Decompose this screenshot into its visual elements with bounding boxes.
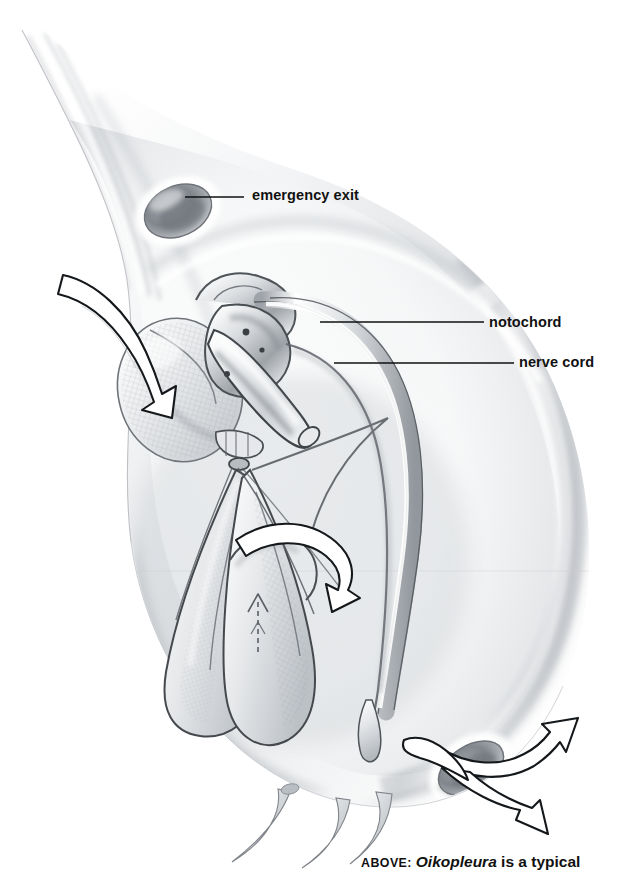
label-emergency-exit: emergency exit (252, 188, 359, 203)
label-notochord: notochord (489, 315, 562, 330)
caption-genus: Oikopleura (416, 853, 497, 870)
oikopleura-house-illustration (0, 0, 625, 879)
trunk-organ-dot-2 (259, 347, 264, 352)
trunk-organ-dot-1 (243, 329, 250, 336)
figure-caption: ABOVE: Oikopleura is a typical (361, 853, 580, 871)
figure-page: emergency exit notochord nerve cord ABOV… (0, 0, 625, 879)
outflow-arrow-lower (442, 768, 548, 834)
pharynx-dot (224, 371, 230, 377)
spine-middle (302, 798, 350, 868)
caption-lead-in: ABOVE: (361, 856, 416, 870)
label-nerve-cord: nerve cord (519, 355, 594, 370)
spine-left (232, 789, 290, 862)
caption-rest: is a typical (497, 853, 581, 870)
